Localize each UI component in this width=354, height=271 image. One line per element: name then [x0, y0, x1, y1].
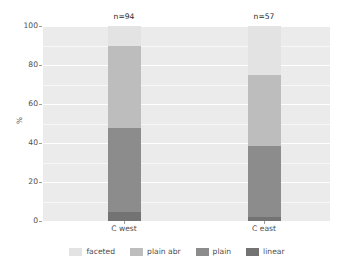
- y-tick-mark: [39, 182, 42, 183]
- legend-item-plain-abr[interactable]: plain abr: [130, 248, 181, 256]
- y-tick-label: 60: [4, 100, 38, 108]
- bar-segment-plain-abr[interactable]: [248, 75, 281, 146]
- bar-annotation-c-west: n=94: [79, 13, 169, 21]
- bar-segment-linear[interactable]: [108, 212, 141, 221]
- stacked-bar-chart: % 020406080100 C westC east n=94n=57 fac…: [0, 0, 354, 271]
- gridline-major: [43, 104, 330, 105]
- y-tick-label: 20: [4, 178, 38, 186]
- bar-segment-plain-abr[interactable]: [108, 46, 141, 129]
- y-axis-title: %: [15, 117, 24, 124]
- legend-label: plain abr: [147, 248, 181, 256]
- y-tick-label: 0: [4, 217, 38, 225]
- legend-swatch-icon: [130, 248, 143, 256]
- legend-label: plain: [213, 248, 232, 256]
- y-tick-label: 100: [4, 22, 38, 30]
- x-tick-label-c-west: C west: [79, 225, 169, 233]
- legend-item-plain[interactable]: plain: [196, 248, 232, 256]
- gridline-major: [43, 143, 330, 144]
- chart-legend: facetedplain abrplainlinear: [0, 248, 354, 256]
- x-tick-label-c-east: C east: [219, 225, 309, 233]
- gridline-minor: [43, 202, 330, 203]
- gridline-major: [43, 221, 330, 222]
- gridline-minor: [43, 46, 330, 47]
- bar-segment-plain[interactable]: [248, 146, 281, 217]
- gridline-major: [43, 65, 330, 66]
- legend-item-linear[interactable]: linear: [246, 248, 284, 256]
- y-tick-mark: [39, 26, 42, 27]
- legend-item-faceted[interactable]: faceted: [69, 248, 115, 256]
- y-tick-label: 40: [4, 139, 38, 147]
- legend-label: faceted: [86, 248, 115, 256]
- legend-label: linear: [263, 248, 284, 256]
- legend-swatch-icon: [246, 248, 259, 256]
- x-tick-mark: [264, 221, 265, 224]
- x-tick-mark: [124, 221, 125, 224]
- bar-segment-faceted[interactable]: [108, 26, 141, 46]
- bar-annotation-c-east: n=57: [219, 13, 309, 21]
- bar-segment-plain[interactable]: [108, 128, 141, 212]
- gridline-minor: [43, 163, 330, 164]
- gridline-minor: [43, 85, 330, 86]
- y-tick-mark: [39, 143, 42, 144]
- legend-swatch-icon: [69, 248, 82, 256]
- bar-c-west[interactable]: [108, 26, 141, 221]
- legend-swatch-icon: [196, 248, 209, 256]
- bar-segment-faceted[interactable]: [248, 26, 281, 75]
- plot-panel: [43, 26, 330, 221]
- gridline-minor: [43, 124, 330, 125]
- bar-c-east[interactable]: [248, 26, 281, 221]
- gridline-major: [43, 26, 330, 27]
- y-tick-mark: [39, 65, 42, 66]
- gridline-major: [43, 182, 330, 183]
- y-tick-label: 80: [4, 61, 38, 69]
- y-tick-mark: [39, 104, 42, 105]
- y-tick-mark: [39, 221, 42, 222]
